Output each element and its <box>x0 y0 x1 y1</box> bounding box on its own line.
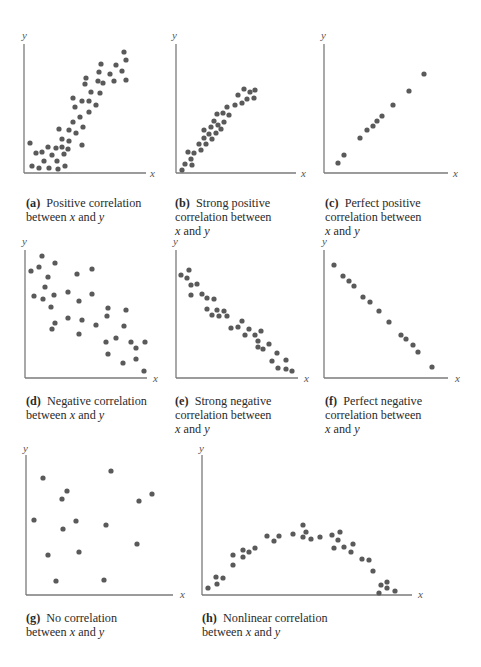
data-point <box>340 273 345 278</box>
var-x: x <box>246 625 251 639</box>
data-point <box>224 104 229 109</box>
x-axis-label: x <box>454 372 460 384</box>
data-point <box>203 141 208 146</box>
scatter-panel-d: yx <box>21 235 158 384</box>
data-point <box>88 89 93 94</box>
data-point <box>49 326 54 331</box>
caption-text: between <box>26 210 67 224</box>
data-point <box>31 517 36 522</box>
data-point <box>194 281 199 286</box>
data-point <box>54 158 59 163</box>
data-point <box>329 532 334 537</box>
scatter-figure: yxyxyxyxyxyxyxyx <box>0 0 481 667</box>
caption-text: and <box>183 422 201 436</box>
data-point <box>133 345 138 350</box>
data-point <box>199 291 204 296</box>
data-point <box>179 167 184 172</box>
data-point <box>252 332 257 337</box>
data-point <box>36 264 41 269</box>
data-point <box>205 585 210 590</box>
data-point <box>376 590 381 595</box>
data-point <box>123 57 128 62</box>
data-point <box>79 142 84 147</box>
data-point <box>45 144 50 149</box>
x-axis-label: x <box>303 372 309 384</box>
caption-tag: (a) <box>26 196 40 210</box>
caption-text: correlation between <box>175 210 271 224</box>
var-y: y <box>354 422 359 436</box>
data-point <box>258 328 263 333</box>
data-point <box>266 341 271 346</box>
data-point <box>108 468 113 473</box>
data-point <box>341 544 346 549</box>
data-point <box>178 272 183 277</box>
data-point <box>36 165 41 170</box>
var-x: x <box>325 224 330 238</box>
var-x: x <box>70 625 75 639</box>
caption-tag: (d) <box>26 394 41 408</box>
caption-tag: (f) <box>325 394 337 408</box>
data-point <box>46 165 51 170</box>
data-point <box>214 581 219 586</box>
data-point <box>86 109 91 114</box>
caption-e: (e) Strong negative correlation between … <box>175 394 271 436</box>
data-point <box>45 274 50 279</box>
data-point <box>346 278 351 283</box>
data-point <box>331 545 336 550</box>
data-point <box>96 69 101 74</box>
caption-text: correlation between <box>325 210 421 224</box>
data-point <box>80 124 85 129</box>
data-point <box>61 151 66 156</box>
caption-text: and <box>78 625 96 639</box>
data-point <box>216 313 221 318</box>
data-point <box>213 574 218 579</box>
var-y: y <box>99 625 104 639</box>
data-point <box>209 312 214 317</box>
caption-text: between <box>202 625 243 639</box>
data-point <box>244 96 249 101</box>
data-point <box>384 585 389 590</box>
data-point <box>136 498 141 503</box>
data-point <box>247 89 252 94</box>
data-point <box>390 102 395 107</box>
scatter-panel-h: yx <box>198 442 423 600</box>
data-point <box>335 537 340 542</box>
data-point <box>65 289 70 294</box>
data-point <box>53 145 58 150</box>
data-point <box>52 260 57 265</box>
y-axis-label: y <box>198 442 204 454</box>
x-axis-label: x <box>179 588 185 600</box>
data-point <box>303 529 308 534</box>
data-point <box>239 318 244 323</box>
data-point <box>86 98 91 103</box>
data-point <box>403 336 408 341</box>
data-point <box>364 127 369 132</box>
data-point <box>28 268 33 273</box>
y-axis-label: y <box>21 235 27 247</box>
data-point <box>214 307 219 312</box>
caption-a: (a) Positive correlation between x and y <box>26 196 141 224</box>
data-point <box>79 98 84 103</box>
data-point <box>55 166 60 171</box>
caption-text: and <box>333 224 351 238</box>
scatter-panel-g: yx <box>22 442 185 600</box>
data-point <box>188 156 193 161</box>
caption-text: No correlation <box>46 611 117 625</box>
data-point <box>429 364 434 369</box>
data-point <box>213 130 218 135</box>
data-point <box>120 360 125 365</box>
var-x: x <box>175 224 180 238</box>
var-y: y <box>354 224 359 238</box>
data-point <box>113 335 118 340</box>
data-point <box>142 339 147 344</box>
data-point <box>133 356 138 361</box>
caption-tag: (c) <box>325 196 339 210</box>
caption-c: (c) Perfect positive correlation between… <box>325 196 421 238</box>
data-point <box>228 325 233 330</box>
data-point <box>209 136 214 141</box>
data-point <box>89 291 94 296</box>
caption-tag: (g) <box>26 611 40 625</box>
caption-b: (b) Strong positive correlation between … <box>175 196 271 238</box>
data-point <box>39 253 44 258</box>
data-point <box>379 113 384 118</box>
